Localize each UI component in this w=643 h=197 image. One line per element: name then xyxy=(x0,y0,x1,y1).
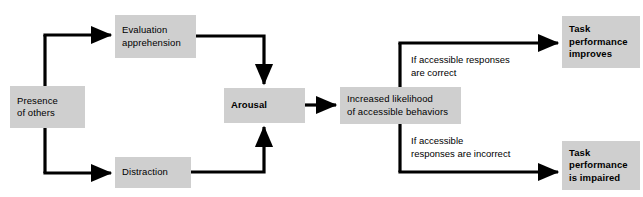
node-task-performance-improves: Task performance improves xyxy=(562,16,640,68)
node-task-performance-is-impaired: Task performance is impaired xyxy=(562,141,640,190)
node-increased-line-2: of accessible behaviors xyxy=(347,106,454,119)
node-evaluation-line-2: apprehension xyxy=(122,37,189,50)
connector-distraction-to-arousal xyxy=(191,127,264,172)
flowchart-diagram: Presence of others Evaluation apprehensi… xyxy=(0,0,643,197)
edge-label-correct-line-1: If accessible responses xyxy=(411,53,510,66)
edge-label-incorrect-line-1: If accessible xyxy=(411,134,510,147)
node-evaluation-line-1: Evaluation xyxy=(122,24,189,37)
edge-label-incorrect-line-2: responses are incorrect xyxy=(411,147,510,160)
node-distraction-line-1: Distraction xyxy=(122,166,184,179)
node-arousal-line-1: Arousal xyxy=(231,99,298,112)
node-distraction: Distraction xyxy=(115,157,191,188)
connector-evaluation-to-arousal xyxy=(196,36,264,84)
node-presence-line-1: Presence xyxy=(17,95,78,108)
node-presence-of-others: Presence of others xyxy=(10,86,85,128)
node-evaluation-apprehension: Evaluation apprehension xyxy=(115,15,196,58)
node-impaired-line-1: Task xyxy=(569,147,633,160)
node-presence-line-2: of others xyxy=(17,107,78,120)
node-improves-line-2: performance xyxy=(569,36,633,49)
node-impaired-line-3: is impaired xyxy=(569,172,633,185)
node-increased-line-1: Increased likelihood xyxy=(347,93,454,106)
edge-label-responses-correct: If accessible responses are correct xyxy=(411,53,510,79)
node-increased-likelihood: Increased likelihood of accessible behav… xyxy=(340,87,461,124)
connector-layer xyxy=(0,0,643,197)
edge-label-responses-incorrect: If accessible responses are incorrect xyxy=(411,134,510,160)
node-improves-line-3: improves xyxy=(569,48,633,61)
node-impaired-line-2: performance xyxy=(569,159,633,172)
node-arousal: Arousal xyxy=(224,88,305,123)
node-improves-line-1: Task xyxy=(569,23,633,36)
edge-label-correct-line-2: are correct xyxy=(411,66,510,79)
